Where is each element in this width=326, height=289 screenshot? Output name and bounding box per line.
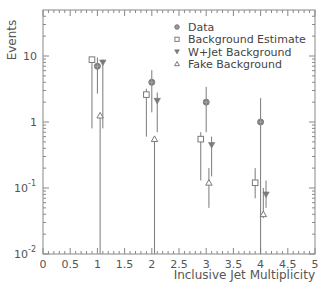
- series-background-estimate: [89, 57, 258, 198]
- triangle-up-marker: [175, 62, 180, 66]
- x-tick-label: 1.5: [116, 258, 134, 271]
- y-tick-label: 10: [14, 182, 28, 195]
- legend-item: W+Jet Background: [175, 46, 292, 59]
- y-axis-label: Events: [5, 20, 19, 61]
- open-square-marker: [175, 37, 179, 41]
- open-square-marker: [144, 92, 150, 98]
- chart: 10-210-1110 00.511.522.533.544.55 DataBa…: [0, 0, 326, 289]
- legend-label: Background Estimate: [188, 33, 306, 46]
- triangle-down-marker: [208, 142, 214, 148]
- x-tick-label: 2: [148, 258, 155, 271]
- y-tick-exponent: -1: [28, 179, 36, 188]
- data-points: [89, 57, 269, 254]
- legend-item: Background Estimate: [175, 33, 306, 46]
- triangle-down-marker: [100, 60, 106, 66]
- x-axis-label: Inclusive Jet Multiplicity: [174, 268, 315, 282]
- open-square-marker: [89, 57, 95, 63]
- open-square-marker: [252, 180, 258, 186]
- series-data: [94, 57, 263, 254]
- legend-item: Fake Background: [175, 58, 282, 71]
- triangle-down-marker: [154, 98, 160, 104]
- legend-item: Data: [175, 21, 215, 34]
- x-tick-label: 0.5: [61, 258, 79, 271]
- y-tick-exponent: -2: [28, 245, 36, 254]
- triangle-up-marker: [151, 136, 157, 142]
- triangle-down-marker: [175, 50, 180, 54]
- legend-label: Data: [188, 21, 214, 34]
- y-tick-label: 1: [30, 116, 37, 129]
- legend-label: W+Jet Background: [188, 46, 292, 59]
- y-tick-label: 10: [14, 248, 28, 261]
- y-tick-label: 10: [23, 50, 37, 63]
- series-w-jet-background: [100, 60, 270, 208]
- triangle-up-marker: [206, 180, 212, 186]
- x-tick-label: 0: [40, 258, 47, 271]
- open-square-marker: [198, 136, 204, 142]
- x-tick-label: 1: [94, 258, 101, 271]
- legend: DataBackground EstimateW+Jet BackgroundF…: [175, 21, 306, 71]
- series-fake-background: [97, 112, 267, 254]
- legend-label: Fake Background: [188, 58, 282, 71]
